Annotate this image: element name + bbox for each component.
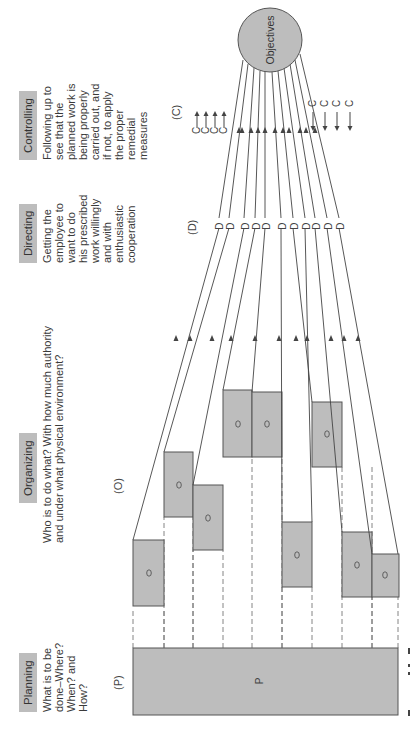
svg-text:C: C	[319, 100, 330, 107]
org-box-1	[133, 540, 164, 606]
org-box-3	[193, 485, 223, 550]
org-box-6	[282, 522, 312, 587]
org-box-4	[223, 390, 252, 457]
planning-column: Planning What is to be done–Where? When?…	[18, 643, 89, 712]
direction-arrows	[174, 127, 361, 341]
org-box-2	[164, 452, 193, 517]
d-label: D	[277, 222, 288, 229]
controlling-symbol: (C)	[170, 105, 182, 120]
d-label: D	[214, 222, 225, 229]
control-arrow: C	[218, 111, 229, 134]
org-box-9	[372, 554, 399, 597]
d-label: D	[311, 222, 322, 229]
objectives-label: Objectives	[264, 15, 276, 64]
org-box-5	[252, 392, 282, 457]
directing-header: Directing	[19, 204, 37, 263]
caption-fragment	[408, 648, 410, 716]
d-label: D	[335, 222, 346, 229]
organizing-description: Who is to do what? With how much authori…	[41, 326, 65, 543]
objectives-circle: Objectives	[238, 8, 302, 72]
control-arrow: C	[344, 100, 355, 131]
directing-column: Directing Getting the employee to want t…	[18, 195, 137, 263]
organizing-header: Organizing	[19, 433, 37, 503]
d-label: D	[240, 222, 251, 229]
control-arrow: C	[331, 100, 342, 131]
directing-description: Getting the employee to want to do his p…	[41, 195, 137, 263]
d-label: D	[323, 222, 334, 229]
direct-labels: D D D D D D D D D D D	[214, 222, 346, 229]
d-label: D	[225, 222, 236, 229]
svg-text:C: C	[344, 100, 355, 107]
organizing-column: Organizing Who is to do what? With how m…	[18, 326, 65, 543]
svg-text:C: C	[331, 100, 342, 107]
organizing-symbol: (O)	[112, 478, 124, 494]
control-arrow: C	[319, 100, 330, 131]
controlling-header: Controlling	[19, 91, 37, 160]
planning-box: P	[133, 648, 398, 715]
planning-box-label: P	[254, 677, 265, 684]
directing-symbol: (D)	[186, 220, 198, 235]
planning-header: Planning	[19, 653, 37, 712]
planning-symbol: (P)	[112, 675, 124, 690]
d-label: D	[261, 222, 272, 229]
control-arrows-left: C C C C	[191, 111, 229, 134]
org-box-8	[342, 532, 372, 597]
org-box-7	[312, 402, 342, 467]
controlling-column: Controlling Following up to see that the…	[18, 84, 149, 160]
controlling-description: Following up to see that the planned wor…	[41, 84, 149, 160]
svg-text:C: C	[307, 100, 318, 107]
planning-description: What is to be done–Where? When? and How?	[41, 643, 89, 712]
d-label: D	[289, 222, 300, 229]
